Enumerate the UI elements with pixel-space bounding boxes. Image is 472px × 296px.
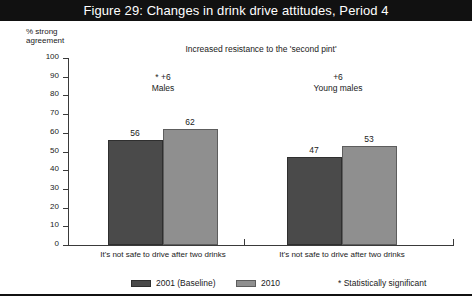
bar-young-males-2001 [287, 157, 342, 245]
y-tick-label-10: 10 [50, 220, 59, 229]
y-tick-10: 10 [63, 226, 69, 227]
bar-males-2001 [108, 140, 163, 245]
y-tick-label-30: 30 [50, 183, 59, 192]
y-tick-90: 90 [63, 77, 69, 78]
y-tick-60: 60 [63, 133, 69, 134]
bar-value-males-2010: 62 [162, 117, 218, 127]
footnote-statistically-significant: * Statistically significant [338, 277, 426, 289]
y-tick-label-90: 90 [50, 71, 59, 80]
y-tick-100: 100 [63, 58, 69, 59]
title-bar: Figure 29: Changes in drink drive attitu… [0, 0, 472, 21]
y-tick-20: 20 [63, 208, 69, 209]
x-axis-line [68, 245, 454, 246]
figure-title: Figure 29: Changes in drink drive attitu… [0, 0, 472, 21]
x-category-label-1: It's not safe to drive after two drinks [63, 250, 263, 259]
legend-item-2001[interactable]: 2001 (Baseline) [131, 277, 216, 289]
y-tick-0: 0 [63, 245, 69, 246]
bar-value-males-2001: 56 [107, 128, 163, 138]
y-tick-label-20: 20 [50, 202, 59, 211]
y-tick-label-50: 50 [50, 146, 59, 155]
y-tick-label-60: 60 [50, 127, 59, 136]
y-tick-80: 80 [63, 95, 69, 96]
y-tick-40: 40 [63, 170, 69, 171]
bar-value-young-males-2010: 53 [341, 134, 397, 144]
y-tick-label-0: 0 [55, 239, 59, 248]
legend-swatch-2001 [131, 280, 151, 287]
chart-subtitle: Increased resistance to the 'second pint… [68, 44, 454, 54]
group-annotation-young-males: +6 Young males [278, 72, 398, 94]
x-category-label-2: It's not safe to drive after two drinks [242, 250, 442, 259]
group-delta-males: * +6 [103, 72, 223, 83]
y-tick-label-70: 70 [50, 108, 59, 117]
group-delta-young-males: +6 [278, 72, 398, 83]
legend-swatch-2010 [236, 280, 256, 287]
group-name-males: Males [103, 83, 223, 94]
y-tick-label-40: 40 [50, 164, 59, 173]
y-tick-30: 30 [63, 189, 69, 190]
legend-label-2010: 2010 [261, 277, 280, 289]
y-tick-label-100: 100 [46, 52, 59, 61]
y-axis-title: % strong agreement [26, 27, 96, 45]
group-name-young-males: Young males [278, 83, 398, 94]
figure-container: Figure 29: Changes in drink drive attitu… [0, 0, 472, 296]
bar-males-2010 [163, 129, 218, 245]
bar-young-males-2010 [342, 146, 397, 245]
x-axis-group-divider [244, 239, 245, 246]
group-annotation-males: * +6 Males [103, 72, 223, 94]
y-tick-label-80: 80 [50, 89, 59, 98]
y-tick-70: 70 [63, 114, 69, 115]
legend-item-2010[interactable]: 2010 [236, 277, 280, 289]
x-axis-end-tick [453, 239, 454, 246]
bar-value-young-males-2001: 47 [286, 145, 342, 155]
legend-label-2001: 2001 (Baseline) [156, 277, 216, 289]
y-tick-50: 50 [63, 152, 69, 153]
